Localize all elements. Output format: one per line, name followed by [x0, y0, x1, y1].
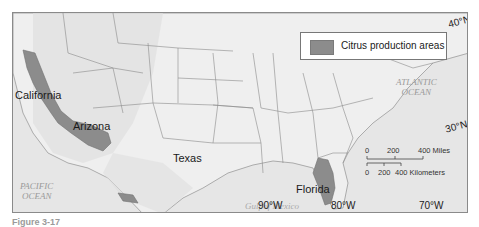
legend-label: Citrus production areas	[341, 40, 444, 51]
label-arizona: Arizona	[73, 120, 110, 132]
label-lon-90w: 90°W	[258, 200, 283, 211]
label-atlantic-ocean: ATLANTIC OCEAN	[396, 77, 437, 97]
scale-bar-lines	[365, 146, 465, 186]
label-florida: Florida	[296, 183, 330, 195]
scale-km-400: 400 Kilometers	[395, 168, 445, 177]
legend-swatch-citrus	[310, 40, 334, 55]
scale-bar: 0 200 400 Miles 0 200 400 Kilometers	[365, 146, 465, 186]
scale-km-200: 200	[378, 168, 391, 177]
map-frame: California Arizona Texas Florida ATLANTI…	[12, 12, 468, 213]
label-lon-70w: 70°W	[419, 200, 444, 211]
label-pacific-ocean: PACIFIC OCEAN	[20, 181, 53, 201]
scale-km-0: 0	[365, 168, 369, 177]
label-texas: Texas	[173, 152, 202, 164]
map-legend: Citrus production areas	[300, 32, 447, 60]
label-lon-80w: 80°W	[331, 200, 356, 211]
label-california: California	[15, 89, 61, 101]
figure-caption: Figure 3-17	[12, 217, 60, 227]
